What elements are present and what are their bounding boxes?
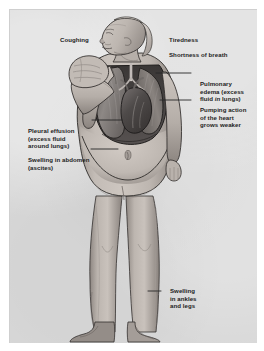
right-hand <box>166 160 181 181</box>
label-pulmonary-edema: Pulmonaryedema (excessfluid in lungs) <box>200 80 244 103</box>
pulmonary-edema-line3-post: lungs) <box>220 95 240 102</box>
pulmonary-edema-line3-pre: fluid <box>200 95 215 102</box>
heart <box>121 88 152 134</box>
label-tiredness: Tiredness <box>169 36 198 44</box>
illustration-panel: Coughing Tiredness Shortness of breath P… <box>9 9 257 343</box>
left-foot <box>70 322 115 342</box>
head <box>102 18 145 55</box>
label-pumping-action: Pumping action of the heart grows weaker <box>200 106 246 129</box>
anatomical-illustration <box>10 10 257 343</box>
pulmonary-edema-line2: edema (excess <box>200 88 244 95</box>
label-swelling-ankles: Swelling in ankles and legs <box>170 287 197 310</box>
left-leg <box>90 196 122 332</box>
patient-body <box>69 17 182 342</box>
label-swelling-abdomen: Swelling in abdomen (ascites) <box>28 156 90 171</box>
legs-group <box>90 196 159 332</box>
label-coughing: Coughing <box>60 36 89 44</box>
pulmonary-edema-line1: Pulmonary <box>200 80 232 87</box>
label-pleural-effusion: Pleural effusion (excess fluid around lu… <box>28 127 75 150</box>
label-shortness-of-breath: Shortness of breath <box>169 51 228 59</box>
figure-frame: Coughing Tiredness Shortness of breath P… <box>0 0 264 351</box>
